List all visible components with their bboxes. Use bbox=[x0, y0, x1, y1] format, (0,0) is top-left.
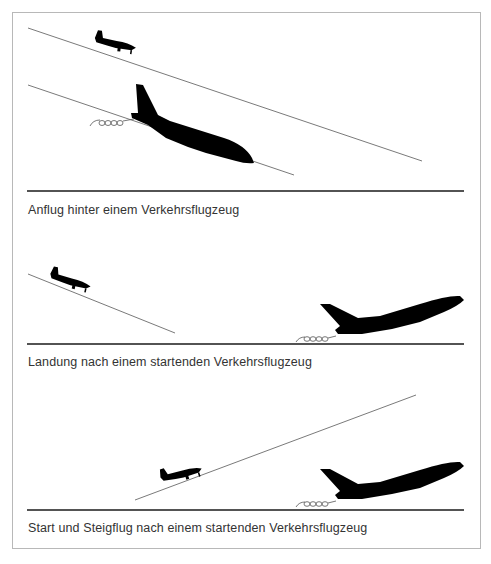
panel-approach bbox=[27, 28, 464, 191]
caption-landing: Landung nach einem startenden Verkehrsfl… bbox=[28, 355, 312, 369]
wake-vortex-icon bbox=[296, 501, 336, 507]
airliner-takeoff-icon bbox=[320, 462, 464, 499]
airliner-icon bbox=[131, 84, 254, 163]
small-aircraft-climbing-icon bbox=[158, 457, 204, 488]
panel-landing bbox=[27, 266, 464, 344]
small-aircraft-approach-path bbox=[28, 274, 175, 333]
panel-takeoff bbox=[27, 395, 464, 510]
caption-approach: Anflug hinter einem Verkehrsflugzeug bbox=[28, 203, 239, 217]
wake-turbulence-diagram bbox=[0, 0, 491, 564]
small-aircraft-icon bbox=[48, 266, 93, 293]
airliner-takeoff-icon bbox=[320, 296, 464, 334]
caption-takeoff: Start und Steigflug nach einem startende… bbox=[28, 521, 367, 535]
wake-vortex-icon bbox=[90, 119, 134, 126]
small-aircraft-icon bbox=[93, 30, 137, 55]
wake-vortex-icon bbox=[296, 336, 336, 342]
